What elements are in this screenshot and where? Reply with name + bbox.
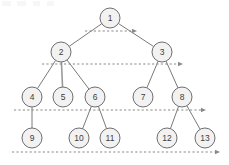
node-label-2: 2 bbox=[59, 47, 64, 57]
tree-edge-n2-n5 bbox=[61, 62, 62, 87]
tree-node-4[interactable]: 4 bbox=[22, 87, 42, 107]
tree-edge-n1-n3 bbox=[118, 23, 153, 46]
node-label-13: 13 bbox=[200, 133, 210, 143]
tree-node-11[interactable]: 11 bbox=[100, 128, 120, 148]
tree-node-3[interactable]: 3 bbox=[152, 42, 172, 62]
level-order-arrow-2 bbox=[14, 108, 206, 113]
node-label-4: 4 bbox=[30, 92, 35, 102]
tree-edge-n2-n4 bbox=[37, 60, 55, 88]
level-arrow-head-2 bbox=[201, 108, 206, 113]
node-label-1: 1 bbox=[108, 13, 113, 23]
tree-node-2[interactable]: 2 bbox=[51, 42, 71, 62]
tree-node-8[interactable]: 8 bbox=[172, 87, 192, 107]
node-label-3: 3 bbox=[160, 47, 165, 57]
tree-edge-n3-n7 bbox=[147, 61, 158, 88]
tree-canvas: 12345678910111213 bbox=[0, 0, 229, 165]
node-label-8: 8 bbox=[180, 92, 185, 102]
level-arrow-head-3 bbox=[215, 150, 220, 155]
node-label-7: 7 bbox=[141, 92, 146, 102]
tree-node-6[interactable]: 6 bbox=[85, 87, 105, 107]
node-label-11: 11 bbox=[106, 133, 115, 143]
node-label-5: 5 bbox=[61, 92, 66, 102]
tree-node-5[interactable]: 5 bbox=[53, 87, 73, 107]
tree-node-13[interactable]: 13 bbox=[195, 128, 215, 148]
node-label-10: 10 bbox=[74, 133, 84, 143]
level-arrow-head-1 bbox=[178, 62, 183, 67]
node-label-9: 9 bbox=[30, 133, 35, 143]
tree-edges-layer bbox=[32, 23, 200, 129]
node-label-12: 12 bbox=[162, 133, 172, 143]
tree-edge-n3-n8 bbox=[166, 61, 178, 88]
tree-node-7[interactable]: 7 bbox=[133, 87, 153, 107]
tree-nodes-layer: 12345678910111213 bbox=[22, 8, 215, 148]
node-label-6: 6 bbox=[93, 92, 98, 102]
level-arrow-head-0 bbox=[132, 29, 137, 34]
tree-node-1[interactable]: 1 bbox=[100, 8, 120, 28]
binary-tree-diagram: 12345678910111213 bbox=[0, 0, 229, 165]
tree-edge-n1-n2 bbox=[69, 24, 102, 47]
tree-node-12[interactable]: 12 bbox=[157, 128, 177, 148]
tree-edge-n8-n13 bbox=[187, 106, 200, 130]
tree-node-10[interactable]: 10 bbox=[69, 128, 89, 148]
tree-node-9[interactable]: 9 bbox=[22, 128, 42, 148]
level-order-arrow-3 bbox=[12, 150, 220, 155]
